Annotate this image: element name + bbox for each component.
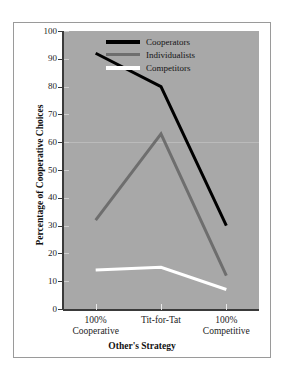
y-tick-mark	[58, 281, 63, 282]
y-tick-mark-inner	[64, 253, 69, 254]
x-tick-label-line2: Cooperative	[54, 326, 138, 337]
y-tick-mark	[58, 142, 63, 143]
y-tick-mark	[58, 114, 63, 115]
legend-swatch-cooperators	[106, 40, 140, 44]
y-tick-label: 90	[31, 54, 57, 63]
legend-item: Competitors	[106, 61, 195, 74]
y-tick-mark-inner	[64, 281, 69, 282]
y-tick-mark	[58, 253, 63, 254]
y-tick-mark	[58, 87, 63, 88]
x-tick-label-line2: Competitive	[184, 326, 268, 337]
x-tick-mark	[161, 304, 162, 310]
legend-label: Individualists	[146, 50, 195, 60]
legend-swatch-individualists	[106, 53, 140, 56]
y-tick-mark-inner	[64, 59, 69, 60]
y-tick-mark	[58, 309, 63, 310]
x-tick-mark	[226, 304, 227, 310]
y-tick-mark	[58, 226, 63, 227]
legend-label: Cooperators	[146, 37, 190, 47]
y-tick-mark-inner	[64, 198, 69, 199]
y-tick-mark	[58, 198, 63, 199]
legend-item: Cooperators	[106, 35, 195, 48]
legend: CooperatorsIndividualistsCompetitors	[106, 35, 195, 74]
y-tick-mark	[58, 59, 63, 60]
y-tick-mark-inner	[64, 87, 69, 88]
series-line-cooperators	[96, 53, 227, 225]
y-axis-title: Percentage of Cooperative Choices	[35, 65, 45, 285]
y-tick-mark-inner	[64, 31, 69, 32]
series-line-individualists	[96, 134, 227, 276]
y-tick-label: 0	[31, 305, 57, 314]
y-tick-mark-inner	[64, 170, 69, 171]
legend-label: Competitors	[146, 63, 191, 73]
x-axis-title: Other's Strategy	[14, 341, 270, 351]
series-line-competitors	[96, 267, 227, 289]
y-tick-mark-inner	[64, 114, 69, 115]
x-tick-mark	[96, 304, 97, 310]
figure-frame: 0102030405060708090100 100%CooperativeTi…	[13, 22, 271, 358]
legend-item: Individualists	[106, 48, 195, 61]
y-tick-mark	[58, 31, 63, 32]
legend-swatch-competitors	[106, 66, 140, 70]
x-tick-label: 100%Competitive	[184, 315, 268, 337]
y-tick-mark	[58, 170, 63, 171]
y-tick-label: 100	[31, 27, 57, 36]
y-tick-mark-inner	[64, 142, 69, 143]
x-tick-label-line1: 100%	[184, 315, 268, 326]
y-tick-mark-inner	[64, 226, 69, 227]
